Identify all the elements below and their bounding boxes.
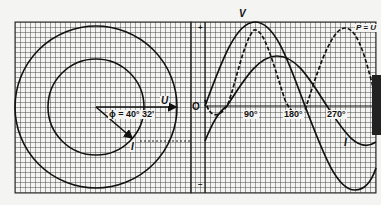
origin-label: O xyxy=(192,102,200,112)
phase-angle-label: ϕ = 40° 32' xyxy=(108,110,155,119)
tick-90: 90° xyxy=(243,110,259,119)
wave-grid xyxy=(191,22,376,193)
current-curve-label: I xyxy=(344,138,347,148)
voltage-curve-label: V xyxy=(239,9,246,19)
current-phasor-label: I xyxy=(130,142,135,152)
voltage-phasor-label: U xyxy=(160,96,169,106)
phasor-and-waveform-figure xyxy=(0,0,381,205)
negative-sign: − xyxy=(198,181,203,189)
page-edge-shadow xyxy=(372,75,381,135)
positive-sign: + xyxy=(198,24,203,32)
power-curve-label: P = U xyxy=(355,24,377,32)
tick-270: 270° xyxy=(326,110,347,119)
tick-180: 180° xyxy=(283,110,304,119)
